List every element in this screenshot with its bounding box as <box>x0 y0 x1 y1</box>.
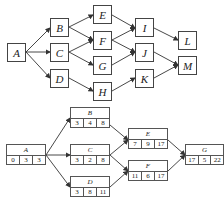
activity-node-b: B 348 <box>70 107 110 128</box>
activity-node-a: A 033 <box>6 144 46 165</box>
edge-g-j <box>112 52 135 65</box>
edge-c-f-bottom <box>110 155 128 171</box>
value-finish: 3 <box>33 156 45 166</box>
edge-c-g <box>69 52 93 65</box>
value-duration: 4 <box>84 119 97 129</box>
node-d: D <box>50 69 69 88</box>
node-i: I <box>135 18 154 37</box>
node-f: F <box>93 31 112 50</box>
activity-label: G <box>186 145 223 156</box>
edge-a-b <box>26 28 50 52</box>
value-finish: 8 <box>97 119 109 129</box>
edge-a-d-bottom <box>46 155 70 187</box>
edge-i-l <box>154 28 178 40</box>
edge-d-f-bottom <box>110 171 128 187</box>
edge-f-i <box>112 28 135 40</box>
edge-a-d <box>26 52 50 78</box>
value-start: 3 <box>71 156 84 166</box>
value-finish: 22 <box>211 156 223 166</box>
node-l: L <box>178 31 197 50</box>
activity-label: F <box>129 161 167 172</box>
edge-a-b-bottom <box>46 118 70 155</box>
activity-node-g: G 17522 <box>185 144 224 165</box>
edge-b-e-bottom <box>110 125 128 140</box>
edge-e-g-bottom <box>168 140 185 155</box>
value-duration: 5 <box>199 156 212 166</box>
node-m: M <box>178 56 197 75</box>
value-finish: 17 <box>155 172 167 182</box>
edge-h-k <box>112 78 135 91</box>
value-start: 11 <box>129 172 142 182</box>
node-k: K <box>135 69 154 88</box>
activity-label: C <box>71 145 109 156</box>
activity-node-f: F 11617 <box>128 160 168 181</box>
node-j: J <box>135 43 154 62</box>
activity-node-c: C 328 <box>70 144 110 165</box>
edge-e-i <box>112 15 135 28</box>
edge-d-h <box>69 78 93 91</box>
value-start: 3 <box>71 188 84 198</box>
value-duration: 3 <box>20 156 33 166</box>
value-start: 3 <box>71 119 84 129</box>
edge-k-m <box>154 65 178 78</box>
activity-node-d: D 3811 <box>70 176 110 197</box>
activity-node-e: E 7917 <box>128 128 168 149</box>
value-start: 17 <box>186 156 199 166</box>
value-start: 0 <box>7 156 20 166</box>
edge-c-e-bottom <box>110 140 128 155</box>
value-finish: 8 <box>97 156 109 166</box>
value-duration: 6 <box>142 172 155 182</box>
node-b: B <box>50 18 69 37</box>
node-a: A <box>7 43 26 62</box>
edge-f-j <box>112 40 135 52</box>
node-h: H <box>93 82 112 101</box>
value-duration: 8 <box>84 188 97 198</box>
node-g: G <box>93 56 112 75</box>
value-finish: 17 <box>155 140 167 150</box>
value-finish: 11 <box>97 188 109 198</box>
value-duration: 2 <box>84 156 97 166</box>
activity-label: B <box>71 108 109 119</box>
edge-f-g-bottom <box>168 155 185 171</box>
value-duration: 9 <box>142 140 155 150</box>
node-e: E <box>93 5 112 24</box>
edge-j-m <box>154 52 178 65</box>
activity-label: D <box>71 177 109 188</box>
activity-label: E <box>129 129 167 140</box>
edge-c-f <box>69 40 93 52</box>
edge-b-e <box>69 15 93 27</box>
value-start: 7 <box>129 140 142 150</box>
node-c: C <box>50 43 69 62</box>
activity-label: A <box>7 145 45 156</box>
edge-b-f <box>69 27 93 40</box>
